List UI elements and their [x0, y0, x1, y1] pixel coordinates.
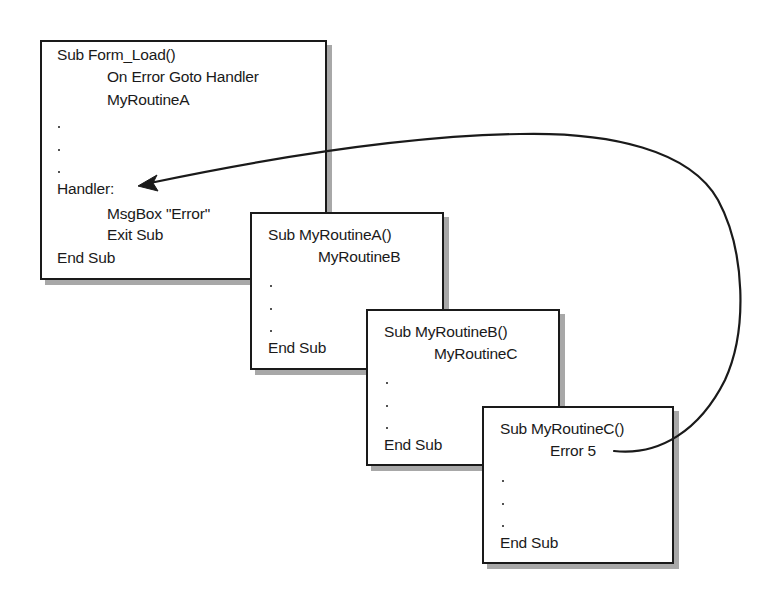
code-line-msgbox: MsgBox "Error" — [107, 205, 210, 223]
ellipsis-dot — [502, 480, 504, 482]
code-line-call-routine-b: MyRoutineB — [318, 248, 400, 266]
ellipsis-dot — [386, 427, 388, 429]
ellipsis-dot — [270, 330, 272, 332]
ellipsis-dot — [58, 171, 60, 173]
code-line-sub-declaration: Sub MyRoutineA() — [268, 226, 391, 244]
code-line-end-sub: End Sub — [57, 249, 115, 267]
code-line-on-error: On Error Goto Handler — [107, 68, 259, 86]
my-routine-c-box: Sub MyRoutineC() Error 5 End Sub — [482, 406, 674, 564]
ellipsis-dot — [270, 285, 272, 287]
code-line-end-sub: End Sub — [500, 534, 558, 552]
code-line-sub-declaration: Sub MyRoutineC() — [500, 420, 624, 438]
error-propagation-diagram: Sub Form_Load() On Error Goto Handler My… — [0, 0, 769, 593]
code-line-end-sub: End Sub — [384, 436, 442, 454]
ellipsis-dot — [502, 503, 504, 505]
ellipsis-dot — [386, 382, 388, 384]
code-line-exit-sub: Exit Sub — [107, 226, 163, 244]
code-line-raise-error: Error 5 — [550, 442, 596, 460]
ellipsis-dot — [58, 149, 60, 151]
ellipsis-dot — [386, 405, 388, 407]
code-line-call-routine-a: MyRoutineA — [107, 91, 189, 109]
ellipsis-dot — [270, 308, 272, 310]
code-line-call-routine-c: MyRoutineC — [434, 345, 517, 363]
ellipsis-dot — [502, 525, 504, 527]
ellipsis-dot — [58, 126, 60, 128]
code-line-sub-declaration: Sub MyRoutineB() — [384, 323, 507, 341]
code-line-end-sub: End Sub — [268, 339, 326, 357]
code-line-sub-declaration: Sub Form_Load() — [57, 46, 175, 64]
code-line-handler-label: Handler: — [57, 180, 114, 198]
